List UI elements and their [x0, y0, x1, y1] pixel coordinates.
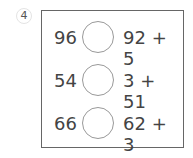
problem-number: 4: [16, 8, 32, 24]
left-value: 54: [54, 70, 77, 91]
answer-circle[interactable]: [82, 64, 114, 96]
answer-circle[interactable]: [82, 107, 114, 139]
answer-circle[interactable]: [82, 21, 114, 53]
comparison-row: 66 62 + 3: [42, 105, 183, 145]
comparison-row: 96 92 + 5: [42, 19, 183, 59]
left-value: 96: [54, 27, 77, 48]
right-expression: 62 + 3: [123, 113, 183, 155]
comparison-box: 96 92 + 5 54 3 + 51 66 62 + 3: [41, 10, 184, 148]
comparison-row: 54 3 + 51: [42, 62, 183, 102]
left-value: 66: [54, 113, 77, 134]
